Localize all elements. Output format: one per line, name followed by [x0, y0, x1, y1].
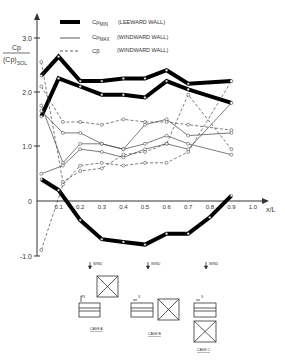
- data-point: [144, 243, 146, 245]
- x-tick-label: 0.2: [76, 204, 85, 210]
- x-tick-label: 1.0: [249, 204, 258, 210]
- series-group: [40, 55, 233, 251]
- data-point: [100, 161, 103, 164]
- data-point: [122, 118, 125, 121]
- data-point: [40, 104, 43, 107]
- data-point: [61, 183, 64, 186]
- case-b-label: CASE B: [148, 332, 162, 336]
- x-tick-label: 0.3: [98, 204, 107, 210]
- data-point: [122, 153, 125, 156]
- data-point: [122, 164, 125, 167]
- data-point: [79, 85, 81, 87]
- x-tick-label: 0.8: [206, 204, 215, 210]
- x-tick-label: 0.5: [141, 204, 150, 210]
- x-marker: X: [201, 295, 204, 299]
- data-point: [144, 77, 146, 79]
- svg-text:SOL: SOL: [17, 60, 27, 66]
- data-point: [187, 123, 190, 126]
- data-point: [165, 80, 167, 82]
- data-point: [165, 69, 167, 71]
- x-axis-arrow-icon: [262, 198, 269, 204]
- y-tick-label: 1.0: [22, 143, 32, 150]
- data-point: [187, 83, 189, 85]
- series-line: [41, 179, 231, 244]
- data-point: [61, 131, 64, 134]
- data-point: [79, 170, 82, 173]
- data-point: [57, 55, 59, 57]
- wind-label: WIND: [151, 262, 161, 266]
- case-a-label: CASE A: [90, 327, 103, 331]
- y-axis-arrow-icon: [34, 13, 40, 20]
- y-tick-label: 0: [28, 198, 32, 205]
- case-c-diagram: WIND X CASE C: [194, 262, 219, 352]
- case-diagrams: WIND X CASE A WIND X CASE B WIND X: [79, 262, 219, 352]
- x-marker: X: [83, 295, 86, 299]
- data-point: [100, 150, 103, 153]
- data-point: [79, 80, 81, 82]
- data-point: [144, 142, 147, 145]
- data-point: [187, 142, 190, 145]
- data-point: [40, 85, 43, 88]
- data-point: [165, 233, 167, 235]
- data-point: [165, 134, 168, 137]
- data-point: [101, 80, 103, 82]
- x-tick-label: 0.7: [184, 204, 193, 210]
- data-point: [209, 216, 211, 218]
- series-line: [41, 111, 231, 155]
- wind-label: WIND: [209, 262, 219, 266]
- x-tick-label: 0.4: [119, 204, 128, 210]
- data-point: [61, 164, 64, 167]
- data-point: [100, 123, 103, 126]
- data-point: [187, 88, 189, 90]
- y-tick-labels: 3.0 2.0 1.0 0 -1.0: [20, 35, 32, 260]
- data-point: [230, 148, 233, 151]
- data-point: [230, 80, 233, 83]
- data-point: [57, 77, 59, 79]
- series-line: [41, 57, 231, 84]
- data-point: [230, 153, 233, 156]
- x-marker: X: [138, 295, 141, 299]
- data-point: [40, 110, 43, 113]
- data-point: [79, 164, 82, 167]
- data-point: [57, 189, 59, 191]
- pressure-coefficient-chart: 0.10.20.30.40.50.60.70.80.91.0 3.0 2.0 1…: [0, 0, 285, 360]
- data-point: [230, 101, 233, 104]
- data-point: [79, 142, 82, 145]
- y-tick-label: 3.0: [22, 35, 32, 42]
- y-tick-label: 2.0: [22, 89, 32, 96]
- legend-cbeta-symbol: Cβ: [92, 48, 100, 54]
- data-point: [230, 194, 232, 196]
- data-point: [79, 131, 82, 134]
- legend: CpMIN (LEEWARD WALL) CpMAX (WINDWARD WAL…: [60, 19, 168, 54]
- data-point: [165, 142, 168, 145]
- data-point: [187, 93, 190, 96]
- data-point: [100, 167, 103, 170]
- data-point: [79, 120, 82, 123]
- series-line: [41, 106, 231, 163]
- legend-cpmax-symbol: CpMAX: [92, 34, 109, 42]
- data-point: [40, 178, 42, 180]
- data-point: [40, 61, 43, 64]
- y-tick-label: -1.0: [20, 253, 32, 260]
- legend-cpmin-symbol: CpMIN: [92, 19, 108, 27]
- data-point: [79, 219, 81, 221]
- data-point: [230, 129, 233, 132]
- x-axis-label: x/L: [266, 206, 275, 213]
- data-point: [187, 233, 189, 235]
- y-axis-label: Cp (Cp) SOL: [3, 44, 30, 66]
- svg-text:Cp: Cp: [12, 44, 21, 52]
- data-point: [165, 120, 168, 123]
- case-c-label: CASE C: [197, 348, 211, 352]
- data-point: [40, 74, 42, 76]
- case-b-diagram: WIND X CASE B: [131, 262, 179, 336]
- data-point: [187, 134, 190, 137]
- data-point: [40, 249, 43, 252]
- data-point: [100, 142, 103, 145]
- legend-label-cbeta: (WINDWARD WALL): [117, 47, 168, 53]
- data-point: [61, 120, 64, 123]
- x-tick-label: 0.6: [162, 204, 171, 210]
- data-point: [122, 148, 125, 151]
- data-point: [101, 94, 103, 96]
- data-point: [101, 238, 103, 240]
- data-point: [79, 148, 82, 151]
